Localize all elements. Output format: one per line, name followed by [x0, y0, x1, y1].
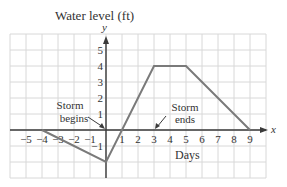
grid — [10, 34, 266, 178]
x-tick-label: 5 — [183, 133, 189, 145]
annotation-storm-begins-line1: Storm — [57, 99, 84, 111]
y-axis-letter: y — [101, 21, 107, 33]
x-axis-label: Days — [175, 148, 200, 162]
x-tick-label: 2 — [135, 133, 141, 145]
x-tick-label: 3 — [151, 133, 157, 145]
y-tick-label: 3 — [98, 76, 104, 88]
y-tick-label: 4 — [98, 60, 104, 72]
annotation-storm-begins-line2: begins — [60, 112, 89, 124]
x-tick-label: 6 — [199, 133, 205, 145]
annotation-storm-ends-line1: Storm — [172, 101, 199, 113]
y-tick-label: 2 — [98, 92, 104, 104]
y-axis-arrow-icon — [103, 36, 109, 44]
y-tick-label: 5 — [98, 44, 104, 56]
x-tick-label: 4 — [167, 133, 173, 145]
x-axis-arrow-icon — [260, 127, 268, 133]
x-tick-label: 8 — [231, 133, 237, 145]
x-axis-letter: x — [270, 123, 276, 135]
annotation-storm-ends-line2: ends — [175, 113, 195, 125]
y-tick-label: −1 — [91, 140, 103, 152]
x-tick-label: −4 — [36, 133, 48, 145]
x-tick-label: −5 — [20, 133, 32, 145]
arrowhead-icon — [99, 123, 105, 129]
x-tick-label: 9 — [247, 133, 253, 145]
water-level-chart: −5−4−3−2−1123456789−112345 StormbeginsSt… — [0, 0, 287, 187]
x-tick-label: 7 — [215, 133, 221, 145]
axes — [10, 36, 268, 178]
chart-title: Water level (ft) — [55, 8, 134, 23]
y-tick-label: 1 — [98, 108, 104, 120]
